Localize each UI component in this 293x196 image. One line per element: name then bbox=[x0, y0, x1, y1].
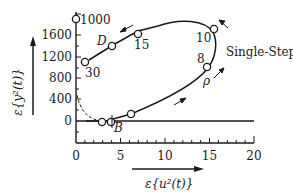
y-ticks bbox=[76, 14, 81, 132]
x-tick-10: 10 bbox=[157, 149, 172, 163]
arrow-ne2-head-icon bbox=[180, 98, 186, 103]
point-1000 bbox=[72, 15, 79, 22]
label-10: 10 bbox=[196, 31, 211, 45]
point-10 bbox=[210, 25, 217, 32]
curve-label: Single-Step bbox=[226, 45, 293, 59]
label-1000: 1000 bbox=[80, 13, 111, 27]
arrow-left-head-icon bbox=[120, 27, 126, 32]
label-rho: ρ bbox=[202, 74, 210, 88]
y-tick-800: 800 bbox=[49, 71, 72, 85]
y-arrow-head-icon bbox=[30, 36, 36, 46]
y-axis-title: ε{y²(t)} bbox=[11, 68, 25, 115]
diagram: 1600 1200 800 400 0 0 5 10 15 20 1000 30… bbox=[0, 0, 293, 196]
y-tick-0: 0 bbox=[64, 114, 72, 128]
x-axis-title: ε{u²(t)} bbox=[145, 177, 193, 191]
label-8: 8 bbox=[197, 52, 205, 66]
x-arrow-head-icon bbox=[194, 166, 204, 172]
point-30 bbox=[81, 58, 88, 65]
label-B: B bbox=[113, 121, 123, 135]
x-tick-5: 5 bbox=[117, 149, 125, 163]
x-tick-0: 0 bbox=[72, 149, 80, 163]
point-D bbox=[108, 42, 115, 49]
label-30: 30 bbox=[85, 66, 100, 80]
point-15 bbox=[134, 30, 141, 37]
x-tick-20: 20 bbox=[246, 149, 261, 163]
x-tick-15: 15 bbox=[202, 149, 217, 163]
y-tick-400: 400 bbox=[49, 92, 72, 106]
label-15: 15 bbox=[134, 38, 149, 52]
y-tick-1600: 1600 bbox=[41, 28, 72, 42]
point-a bbox=[127, 110, 134, 117]
point-b1 bbox=[98, 118, 105, 125]
x-ticks bbox=[85, 136, 254, 143]
label-D: D bbox=[96, 34, 107, 48]
y-tick-1200: 1200 bbox=[41, 50, 72, 64]
